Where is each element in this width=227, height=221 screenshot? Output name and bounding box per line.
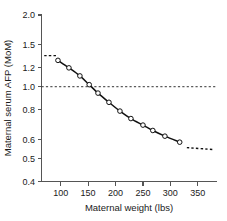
y-tick-label: 1.5: [22, 40, 35, 50]
y-tick-label: 0.5: [22, 154, 35, 164]
data-point-marker: [107, 100, 112, 105]
data-point-marker: [56, 58, 61, 63]
data-point-marker: [67, 66, 72, 71]
x-tick-label: 350: [190, 188, 205, 198]
data-point-marker: [87, 82, 92, 87]
maternal-afp-by-weight-chart: 2.01.51.21.00.80.60.50.4 100150200250300…: [0, 0, 227, 221]
y-tick-label: 1.2: [22, 63, 35, 73]
y-tick-label: 2.0: [22, 10, 35, 20]
y-tick-label: 1.0: [22, 82, 35, 92]
data-point-marker: [78, 74, 83, 79]
data-point-marker: [151, 128, 156, 133]
y-tick-label: 0.4: [22, 177, 35, 187]
x-axis-title: Maternal weight (lbs): [85, 202, 173, 213]
x-tick-label: 200: [108, 188, 123, 198]
data-point-marker: [96, 91, 101, 96]
data-point-marker: [177, 140, 182, 145]
data-point-marker: [163, 134, 168, 139]
chart-figure: 2.01.51.21.00.80.60.50.4 100150200250300…: [0, 0, 227, 221]
data-point-marker: [141, 123, 146, 128]
x-tick-label: 300: [163, 188, 178, 198]
data-point-marker: [118, 109, 123, 114]
data-point-marker: [129, 116, 134, 121]
x-tick-label: 150: [81, 188, 96, 198]
x-tick-label: 100: [53, 188, 68, 198]
y-axis-title: Maternal serum AFP (MoM): [2, 40, 13, 157]
y-tick-label: 0.6: [22, 135, 35, 145]
y-tick-label: 0.8: [22, 105, 35, 115]
x-tick-label: 250: [135, 188, 150, 198]
